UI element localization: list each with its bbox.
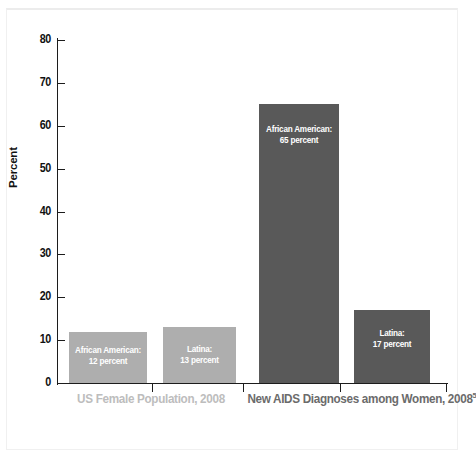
bar-label-line2: 17 percent [357,339,427,350]
y-tick-label-80: 80 [29,33,51,46]
y-tick-label-30: 30 [29,247,51,260]
bar-label-line1: African American: [72,345,144,356]
y-tick-label-70: 70 [29,76,51,89]
x-tick-3 [340,384,341,392]
x-tick-4 [446,384,447,392]
y-tick-label-20-wrap: 20 [20,290,51,302]
y-tick-label-20: 20 [29,290,51,303]
bar-label-line1: Latina: [357,328,427,339]
group-caption-us-female-population: US Female Population, 2008 [63,392,240,407]
y-tick-60 [57,126,65,127]
group-caption-text: US Female Population, 2008 [77,392,225,406]
y-tick-label-40-wrap: 40 [20,205,51,217]
group-caption-text: New AIDS Diagnoses among Women, 2008 [247,392,472,406]
y-tick-label-10-wrap: 10 [20,333,51,345]
bar-label-line2: 65 percent [262,135,336,146]
bar-label-line2: 12 percent [72,356,144,367]
x-tick-1 [152,384,153,392]
y-tick-label-80-wrap: 80 [20,33,51,45]
y-tick-10 [57,340,65,341]
y-tick-label-0-wrap: 0 [20,376,51,388]
y-tick-label-50: 50 [29,162,51,175]
y-tick-80 [57,40,65,41]
y-tick-20 [57,297,65,298]
bar-label-line1: Latina: [166,344,233,355]
bar-group1-african-american[interactable]: African American: 12 percent [69,332,147,383]
x-tick-2 [243,384,244,392]
y-tick-label-40: 40 [29,205,51,218]
y-axis-title: Percent [8,147,20,188]
bar-group2-african-american[interactable]: African American: 65 percent [259,104,339,383]
bar-label-line2: 13 percent [166,355,233,366]
y-tick-label-10: 10 [29,333,51,346]
y-tick-label-30-wrap: 30 [20,247,51,259]
y-tick-label-70-wrap: 70 [20,76,51,88]
bar-label-group1-african-american: African American: 12 percent [71,345,145,366]
group-caption-new-aids-diagnoses: New AIDS Diagnoses among Women, 20085 [247,392,444,407]
y-tick-50 [57,169,65,170]
bar-group1-latina[interactable]: Latina: 13 percent [163,327,236,383]
y-tick-label-60-wrap: 60 [20,119,51,131]
y-tick-30 [57,254,65,255]
y-tick-70 [57,83,65,84]
y-tick-label-50-wrap: 50 [20,162,51,174]
y-tick-label-60: 60 [29,119,51,132]
x-axis-line [57,383,448,384]
bar-label-group2-latina: Latina: 17 percent [356,328,428,349]
y-tick-40 [57,212,65,213]
bar-group2-latina[interactable]: Latina: 17 percent [354,310,430,383]
y-tick-label-0: 0 [29,376,51,389]
group-caption-footnote-marker: 5 [473,391,476,400]
bar-label-group1-latina: Latina: 13 percent [165,344,234,365]
bar-label-line1: African American: [262,124,336,135]
bar-label-group2-african-american: African American: 65 percent [261,124,337,145]
